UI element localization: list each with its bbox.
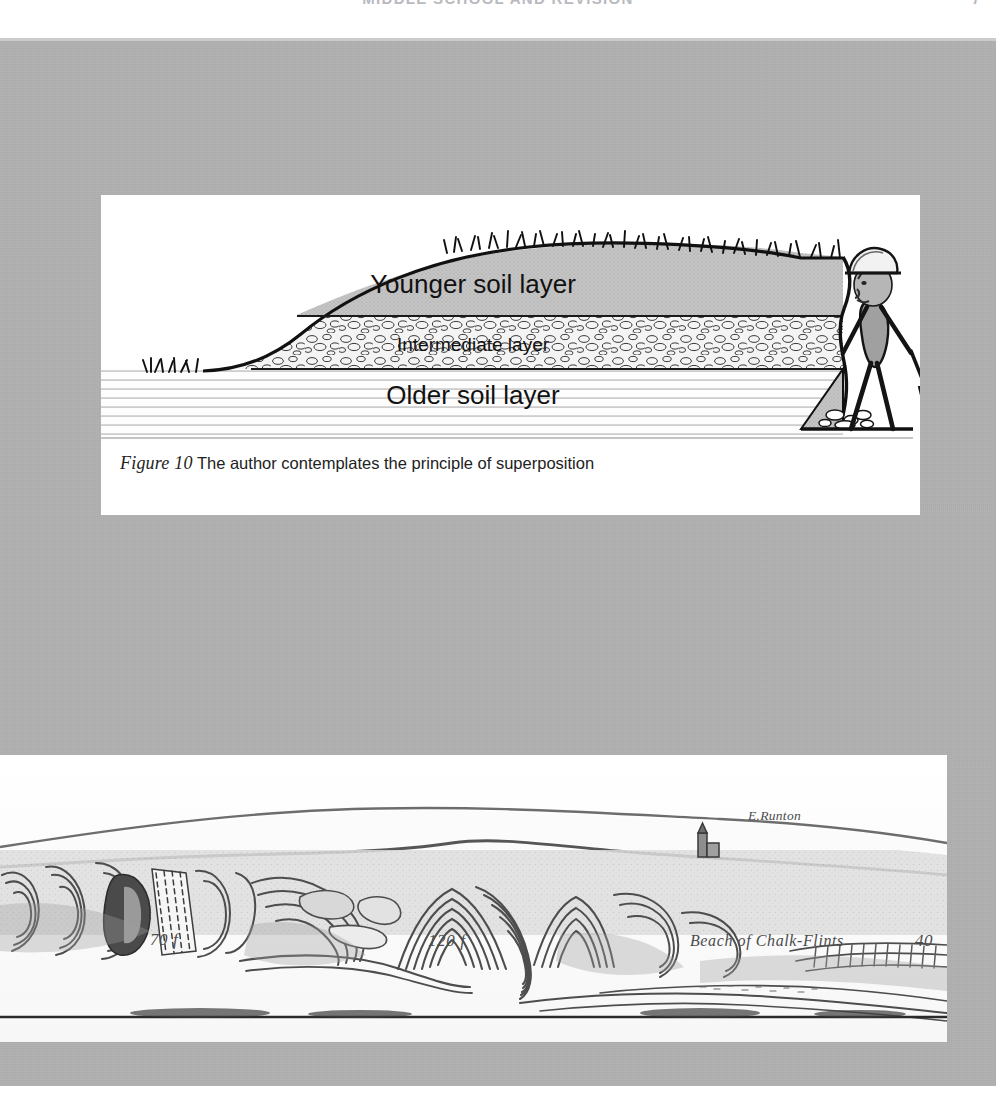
- scanned-book-page: MIDDLE SCHOOL AND REVISION 7: [0, 0, 996, 1104]
- plate-scale-label-120: 120 f: [428, 931, 465, 951]
- hard-hat-icon: [845, 248, 901, 273]
- running-head-title: MIDDLE SCHOOL AND REVISION: [0, 0, 996, 7]
- figure-caption-text: The author contemplates the principle of…: [197, 454, 594, 472]
- contorted-drift-engraving: [0, 755, 947, 1042]
- plate-scale-label-70: 70 f: [150, 930, 178, 950]
- running-head: MIDDLE SCHOOL AND REVISION 7: [0, 0, 996, 12]
- superposition-diagram: Younger soil layer Intermediate layer Ol…: [101, 201, 920, 441]
- geological-section-plate: E.Runton 70 f 120 f Beach of Chalk-Flint…: [0, 755, 947, 1042]
- layer-label-intermediate: Intermediate layer: [397, 334, 550, 355]
- figure-leg-right: [877, 363, 893, 429]
- plate-locality-label: E.Runton: [748, 808, 801, 824]
- page-number: 7: [972, 0, 980, 7]
- plate-number: 40: [915, 931, 933, 951]
- scan-top-edge: [0, 38, 996, 41]
- figure-10-panel: Younger soil layer Intermediate layer Ol…: [101, 195, 920, 515]
- shovel-icon: [911, 351, 920, 412]
- layer-label-older: Older soil layer: [386, 380, 560, 410]
- figure-caption-label: Figure 10: [120, 453, 193, 473]
- plate-beach-label: Beach of Chalk-Flints: [690, 932, 844, 950]
- layer-label-younger: Younger soil layer: [370, 269, 576, 299]
- figure-caption: Figure 10 The author contemplates the pr…: [120, 453, 900, 474]
- author-figure: [843, 248, 920, 429]
